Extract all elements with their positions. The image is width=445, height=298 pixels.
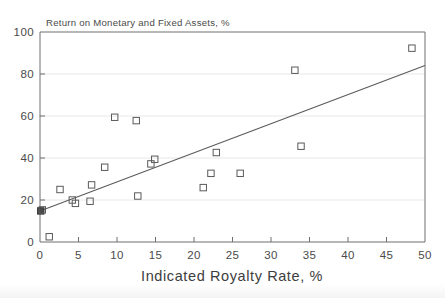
ytick-label-60: 60 (20, 110, 34, 122)
xtick-label-40: 40 (341, 249, 355, 261)
xtick-label-50: 50 (418, 249, 432, 261)
x-axis-tick-labels: 05101520253035404550 (37, 249, 432, 261)
ytick-label-0: 0 (27, 236, 34, 248)
xtick-label-20: 20 (187, 249, 201, 261)
y-axis-tick-labels: 020406080100 (14, 26, 34, 248)
scatter-chart-figure: 020406080100 05101520253035404550 Return… (0, 0, 445, 298)
xtick-label-15: 15 (149, 249, 163, 261)
xtick-label-35: 35 (303, 249, 317, 261)
xtick-label-0: 0 (37, 249, 44, 261)
xtick-label-45: 45 (380, 249, 394, 261)
xtick-label-30: 30 (264, 249, 278, 261)
chart-svg: 020406080100 05101520253035404550 Return… (0, 0, 445, 298)
ytick-label-80: 80 (20, 68, 34, 80)
x-axis-title: Indicated Royalty Rate, % (141, 268, 323, 284)
ytick-label-100: 100 (14, 26, 34, 38)
xtick-label-5: 5 (75, 249, 82, 261)
ytick-label-40: 40 (20, 152, 34, 164)
xtick-label-10: 10 (110, 249, 124, 261)
ytick-label-20: 20 (20, 194, 34, 206)
chart-title: Return on Monetary and Fixed Assets, % (46, 17, 230, 28)
plot-area-background (40, 32, 425, 242)
xtick-label-25: 25 (226, 249, 240, 261)
